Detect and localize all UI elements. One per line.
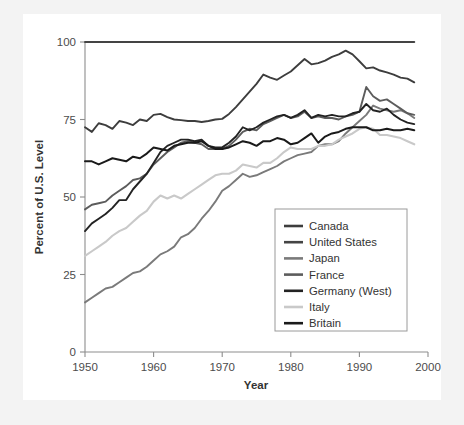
legend-label: United States xyxy=(309,236,377,248)
legend-label: France xyxy=(309,269,344,281)
figure-card: 0255075100 195019601970198019902000 Perc… xyxy=(23,14,441,400)
x-tick-label: 1960 xyxy=(141,361,167,373)
x-tick-label: 2000 xyxy=(415,361,441,373)
legend-label: Japan xyxy=(309,252,340,264)
x-tick-label: 1980 xyxy=(278,361,304,373)
legend-label: Britain xyxy=(309,317,341,329)
y-tick-label: 75 xyxy=(63,114,76,126)
legend-label: Canada xyxy=(309,220,349,232)
x-tick-label: 1970 xyxy=(209,361,235,373)
legend-label: Germany (West) xyxy=(309,285,392,297)
x-tick-label: 1990 xyxy=(347,361,373,373)
legend-label: Italy xyxy=(309,301,330,313)
chart-legend: CanadaUnited StatesJapanFranceGermany (W… xyxy=(275,209,407,331)
y-axis-ticks: 0255075100 xyxy=(57,36,85,358)
y-axis-title: Percent of U.S. Level xyxy=(33,140,45,254)
x-axis-ticks: 195019601970198019902000 xyxy=(72,352,441,373)
y-tick-label: 0 xyxy=(70,346,76,358)
x-axis-title: Year xyxy=(244,379,269,391)
figure-background: 0255075100 195019601970198019902000 Perc… xyxy=(0,0,464,425)
y-tick-label: 50 xyxy=(63,191,76,203)
y-tick-label: 100 xyxy=(57,36,76,48)
line-chart: 0255075100 195019601970198019902000 Perc… xyxy=(23,14,441,400)
x-tick-label: 1950 xyxy=(72,361,98,373)
y-tick-label: 25 xyxy=(63,269,76,281)
